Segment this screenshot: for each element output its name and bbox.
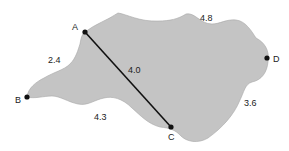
- distance-label-cd: 3.6: [244, 98, 257, 108]
- point-b: [24, 94, 29, 99]
- diagram-canvas: A B C D 2.4 4.0 4.8 3.6 4.3: [0, 0, 289, 151]
- point-a: [82, 29, 87, 34]
- distance-label-ac: 4.0: [128, 65, 141, 75]
- point-c: [168, 124, 173, 129]
- distance-label-bc: 4.3: [94, 112, 107, 122]
- point-label-c: C: [168, 132, 175, 142]
- point-label-d: D: [273, 54, 280, 64]
- distance-label-ab: 2.4: [48, 55, 61, 65]
- point-label-b: B: [15, 95, 21, 105]
- shaded-region: [27, 13, 268, 142]
- point-d: [264, 55, 269, 60]
- point-label-a: A: [72, 22, 78, 32]
- distance-label-top: 4.8: [200, 13, 213, 23]
